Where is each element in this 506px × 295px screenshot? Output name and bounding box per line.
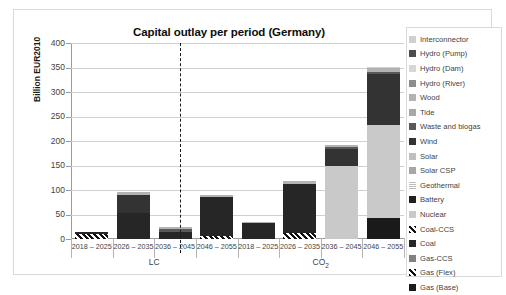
bar-segment-nuclear bbox=[367, 125, 400, 218]
legend-label: Geothermal bbox=[420, 181, 460, 190]
bar-1[interactable] bbox=[75, 43, 108, 239]
bar-segment-wood bbox=[283, 181, 316, 184]
y-axis-tick-label: 300 bbox=[25, 88, 65, 96]
chart-container: Capital outlay per period (Germany) Bill… bbox=[13, 9, 492, 275]
legend-label: Solar CSP bbox=[420, 166, 455, 175]
legend-swatch-wind bbox=[409, 138, 416, 145]
legend-label: Battery bbox=[420, 195, 444, 204]
bar-2[interactable] bbox=[117, 43, 150, 239]
legend-label: Wood bbox=[420, 93, 440, 102]
legend-label: Gas-CCS bbox=[420, 254, 453, 263]
legend-label: Hydro (River) bbox=[420, 79, 465, 88]
x-axis-group-label-lc: LC bbox=[94, 257, 214, 267]
legend-label: Wind bbox=[420, 137, 437, 146]
bar-4[interactable] bbox=[200, 43, 233, 239]
legend-swatch-geothermal bbox=[409, 182, 416, 189]
y-axis-tick bbox=[66, 92, 71, 93]
bar-8[interactable] bbox=[367, 43, 400, 239]
x-axis-tick-label: 2036 – 2045 bbox=[319, 242, 365, 251]
legend-swatch-gas-flex bbox=[409, 269, 416, 276]
y-axis-tick-label: 150 bbox=[25, 161, 65, 169]
legend-swatch-coal-ccs bbox=[409, 226, 416, 233]
x-axis-tick-label: 2018 – 2025 bbox=[235, 242, 281, 251]
legend-swatch-nuclear bbox=[409, 211, 416, 218]
plot-area: 050100150200250300350400 bbox=[71, 43, 404, 239]
legend-label: Tide bbox=[420, 108, 435, 117]
legend-item-battery[interactable]: Battery bbox=[409, 193, 501, 208]
y-axis-tick-label: 200 bbox=[25, 137, 65, 145]
bar-segment-waste-and-biogas bbox=[159, 229, 192, 232]
y-axis-tick-label: 100 bbox=[25, 186, 65, 194]
legend-swatch-solar bbox=[409, 153, 416, 160]
legend-item-interconnector[interactable]: Interconnector bbox=[409, 32, 501, 47]
legend-item-gas-base[interactable]: Gas (Base) bbox=[409, 280, 501, 295]
bar-segment-gas-flex bbox=[75, 234, 108, 239]
legend-label: Hydro (Pump) bbox=[420, 49, 467, 58]
chart-title: Capital outlay per period (Germany) bbox=[54, 26, 404, 38]
x-axis-tick-label: 2046 – 2055 bbox=[194, 242, 240, 251]
legend-label: Hydro (Dam) bbox=[420, 64, 463, 73]
x-axis-tick-label: 2046 – 2055 bbox=[360, 242, 406, 251]
bar-segment-coal bbox=[117, 213, 150, 239]
bar-segment-gas-flex bbox=[283, 233, 316, 239]
y-axis-tick bbox=[66, 117, 71, 118]
legend-item-wood[interactable]: Wood bbox=[409, 90, 501, 105]
legend-swatch-waste-biogas bbox=[409, 123, 416, 130]
bar-7[interactable] bbox=[325, 43, 358, 239]
legend-item-gas-flex[interactable]: Gas (Flex) bbox=[409, 266, 501, 281]
y-axis-tick bbox=[66, 215, 71, 216]
legend-item-waste-and-biogas[interactable]: Waste and biogas bbox=[409, 120, 501, 135]
x-axis-tick-label: 2018 – 2025 bbox=[69, 242, 115, 251]
bar-3[interactable] bbox=[159, 43, 192, 239]
legend-swatch-hydro-dam bbox=[409, 65, 416, 72]
y-axis-tick-label: 250 bbox=[25, 112, 65, 120]
bar-segment-wood bbox=[200, 195, 233, 197]
legend-item-hydro-pump[interactable]: Hydro (Pump) bbox=[409, 47, 501, 62]
legend-swatch-gas-ccs bbox=[409, 255, 416, 262]
legend-label: Coal-CCS bbox=[420, 225, 454, 234]
scenario-divider bbox=[180, 43, 181, 253]
legend-item-nuclear[interactable]: Nuclear bbox=[409, 207, 501, 222]
y-axis-tick bbox=[66, 166, 71, 167]
chart-legend: InterconnectorHydro (Pump)Hydro (Dam)Hyd… bbox=[406, 27, 502, 277]
legend-label: Gas (Flex) bbox=[420, 268, 455, 277]
legend-label: Interconnector bbox=[420, 35, 469, 44]
y-axis-tick-label: 50 bbox=[25, 210, 65, 218]
bar-segment-gas-flex bbox=[200, 236, 233, 239]
legend-swatch-coal bbox=[409, 240, 416, 247]
bar-segment-waste-and-biogas bbox=[325, 147, 358, 149]
legend-item-hydro-dam[interactable]: Hydro (Dam) bbox=[409, 61, 501, 76]
legend-label: Coal bbox=[420, 239, 436, 248]
legend-swatch-hydro-river bbox=[409, 80, 416, 87]
bar-segment-coal bbox=[75, 232, 108, 234]
legend-label: Solar bbox=[420, 152, 438, 161]
legend-swatch-battery bbox=[409, 196, 416, 203]
bar-segment-nuclear bbox=[325, 166, 358, 240]
legend-item-solar-csp[interactable]: Solar CSP bbox=[409, 163, 501, 178]
legend-swatch-solar-csp bbox=[409, 167, 416, 174]
y-axis-tick-label: 350 bbox=[25, 63, 65, 71]
x-axis-tick-label: 2026 – 2035 bbox=[110, 242, 156, 251]
bar-segment-wind bbox=[325, 149, 358, 165]
legend-item-hydro-river[interactable]: Hydro (River) bbox=[409, 76, 501, 91]
bar-segment-wind bbox=[117, 195, 150, 213]
legend-item-gas-ccs[interactable]: Gas-CCS bbox=[409, 251, 501, 266]
bar-5[interactable] bbox=[242, 43, 275, 239]
legend-swatch-wood bbox=[409, 94, 416, 101]
bar-segment-coal bbox=[200, 197, 233, 235]
legend-item-coal-ccs[interactable]: Coal-CCS bbox=[409, 222, 501, 237]
bar-segment-wind bbox=[367, 74, 400, 125]
legend-item-tide[interactable]: Tide bbox=[409, 105, 501, 120]
legend-swatch-interconnector bbox=[409, 36, 416, 43]
y-axis-tick bbox=[66, 43, 71, 44]
legend-swatch-gas-base bbox=[409, 284, 416, 291]
legend-item-coal[interactable]: Coal bbox=[409, 236, 501, 251]
bar-segment-wood bbox=[159, 227, 192, 229]
legend-item-solar[interactable]: Solar bbox=[409, 149, 501, 164]
bar-6[interactable] bbox=[283, 43, 316, 239]
bar-segment-coal bbox=[159, 232, 192, 239]
bar-segment-waste-and-biogas bbox=[367, 72, 400, 74]
legend-item-geothermal[interactable]: Geothermal bbox=[409, 178, 501, 193]
legend-item-wind[interactable]: Wind bbox=[409, 134, 501, 149]
